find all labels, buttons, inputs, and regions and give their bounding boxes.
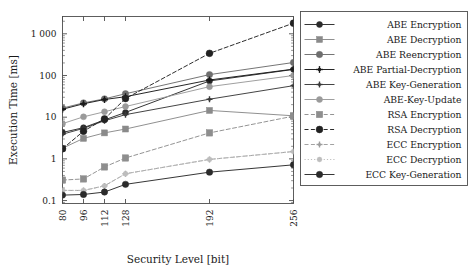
legend-item-abe-decryption[interactable]: ABE Decryption bbox=[302, 32, 467, 47]
data-point bbox=[101, 115, 108, 122]
data-point bbox=[81, 114, 87, 120]
data-point bbox=[292, 84, 295, 87]
legend-item-ecc-encryption[interactable]: ECC Encryption bbox=[302, 137, 467, 152]
legend: ABE EncryptionABE DecryptionABE Reencryp… bbox=[301, 12, 468, 186]
legend-label: ABE-Key-Update bbox=[383, 94, 462, 105]
data-point bbox=[101, 164, 107, 170]
y-axis-title: Execution Time [ms] bbox=[7, 55, 19, 165]
legend-marker bbox=[316, 126, 323, 133]
data-point bbox=[102, 183, 107, 188]
legend-marker bbox=[316, 171, 322, 177]
y-tick-label: 1 000 bbox=[31, 29, 57, 39]
data-point bbox=[80, 128, 87, 135]
data-point bbox=[124, 113, 127, 116]
legend-marker bbox=[318, 83, 321, 86]
legend-label: ECC Key-Generation bbox=[365, 169, 461, 180]
legend-label: ABE Encryption bbox=[386, 19, 461, 30]
legend-item-abe-partial-decryption[interactable]: ABE Partial-Decryption bbox=[302, 62, 467, 77]
data-point bbox=[59, 145, 66, 152]
data-point bbox=[207, 157, 212, 162]
data-point bbox=[59, 192, 65, 198]
y-tick-label: 0.1 bbox=[42, 196, 56, 206]
y-tick-label: 1 bbox=[51, 154, 57, 164]
chart-screenshot: 0.11101001 0008096112128192256Security L… bbox=[0, 0, 472, 270]
legend-item-ecc-decryption[interactable]: ECC Decryption bbox=[302, 152, 467, 167]
data-point bbox=[291, 72, 297, 78]
legend-marker bbox=[317, 22, 323, 28]
data-point bbox=[101, 189, 107, 195]
data-point bbox=[290, 20, 297, 27]
data-point bbox=[208, 98, 211, 101]
data-point bbox=[122, 155, 128, 161]
data-point bbox=[290, 162, 296, 168]
data-point bbox=[207, 107, 213, 113]
data-point bbox=[122, 181, 128, 187]
legend-item-rsa-decryption[interactable]: RSA Decryption bbox=[302, 122, 467, 137]
data-point bbox=[80, 176, 86, 182]
x-axis-title: Security Level [bit] bbox=[127, 253, 229, 265]
legend-item-abe-encryption[interactable]: ABE Encryption bbox=[302, 17, 467, 32]
legend-label: RSA Encryption bbox=[387, 109, 461, 120]
data-point bbox=[291, 149, 296, 154]
data-point bbox=[206, 50, 213, 57]
y-tick-label: 10 bbox=[45, 112, 57, 122]
x-tick-label: 128 bbox=[121, 209, 131, 226]
data-point bbox=[61, 107, 65, 111]
data-point bbox=[103, 98, 107, 102]
data-point bbox=[290, 113, 296, 119]
legend-label: ABE Reencryption bbox=[375, 49, 461, 60]
chart-canvas: 0.11101001 0008096112128192256Security L… bbox=[0, 0, 472, 270]
data-point bbox=[207, 84, 213, 90]
legend-item-ecc-key-generation[interactable]: ECC Key-Generation bbox=[302, 167, 467, 182]
x-tick-label: 80 bbox=[58, 209, 68, 221]
data-point bbox=[206, 130, 212, 136]
x-tick-label: 112 bbox=[100, 210, 110, 227]
data-point bbox=[102, 109, 108, 115]
legend-marker bbox=[317, 157, 322, 162]
legend-label: ABE Key-Generation bbox=[365, 79, 462, 90]
legend-label: ABE Decryption bbox=[386, 34, 462, 45]
data-point bbox=[81, 135, 87, 141]
execution-time-figure: 0.11101001 0008096112128192256Security L… bbox=[0, 0, 472, 270]
legend-marker bbox=[317, 97, 323, 103]
data-point bbox=[80, 191, 86, 197]
y-tick-label: 100 bbox=[39, 71, 56, 81]
legend-marker bbox=[316, 51, 322, 57]
data-point bbox=[122, 95, 129, 102]
legend-label: RSA Decryption bbox=[387, 124, 461, 135]
data-point bbox=[206, 169, 212, 175]
data-point bbox=[82, 102, 86, 106]
legend-label: ECC Encryption bbox=[387, 139, 462, 150]
data-point bbox=[123, 126, 129, 132]
data-point bbox=[208, 78, 212, 82]
legend-marker bbox=[318, 68, 322, 72]
legend-marker bbox=[316, 111, 322, 117]
legend-item-rsa-encryption[interactable]: RSA Encryption bbox=[302, 107, 467, 122]
legend-item-abe-key-generation[interactable]: ABE Key-Generation bbox=[302, 77, 467, 92]
legend-item-abe-reencryption[interactable]: ABE Reencryption bbox=[302, 47, 467, 62]
legend-marker bbox=[318, 143, 321, 146]
data-point bbox=[61, 133, 64, 136]
data-point bbox=[102, 130, 108, 136]
x-tick-label: 256 bbox=[289, 209, 299, 226]
data-point bbox=[123, 104, 129, 110]
data-point bbox=[123, 171, 128, 176]
plot-frame bbox=[63, 17, 294, 204]
data-point bbox=[60, 121, 66, 127]
legend-label: ECC Decryption bbox=[386, 154, 461, 165]
data-point bbox=[59, 177, 65, 183]
data-point bbox=[290, 59, 296, 65]
legend-marker bbox=[317, 37, 323, 43]
data-point bbox=[292, 67, 296, 71]
x-tick-label: 192 bbox=[205, 210, 215, 227]
legend-item-abe-key-update[interactable]: ABE-Key-Update bbox=[302, 92, 467, 107]
x-tick-label: 96 bbox=[79, 209, 89, 221]
legend-label: ABE Partial-Decryption bbox=[352, 64, 461, 75]
